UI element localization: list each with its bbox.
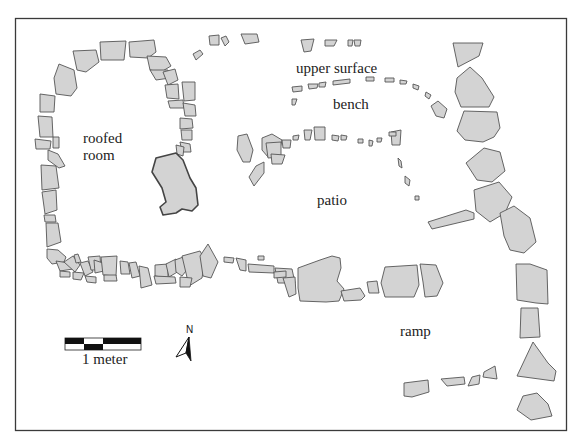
label-room: room <box>83 147 115 163</box>
north-arrow-icon: N <box>176 324 193 361</box>
site-plan: upper surface bench roofed room patio ra… <box>0 0 582 446</box>
interior-slab <box>152 153 198 215</box>
east-wall-stones <box>428 43 536 253</box>
label-upper-surface: upper surface <box>296 60 378 76</box>
label-patio: patio <box>317 192 347 208</box>
label-ramp: ramp <box>400 323 431 339</box>
label-roofed: roofed <box>83 130 123 146</box>
label-bench: bench <box>333 96 369 112</box>
scale-bar: 1 meter <box>65 338 141 367</box>
upper-surface-stones <box>301 39 361 52</box>
roofed-room-south-wall <box>46 223 286 288</box>
bench-outer-edge <box>292 77 447 118</box>
patio-south-edge <box>275 256 443 302</box>
bench-inner-edge <box>237 127 419 200</box>
scattered-stones-top <box>193 34 259 60</box>
north-label: N <box>186 324 193 335</box>
scale-bar-label: 1 meter <box>82 351 127 367</box>
